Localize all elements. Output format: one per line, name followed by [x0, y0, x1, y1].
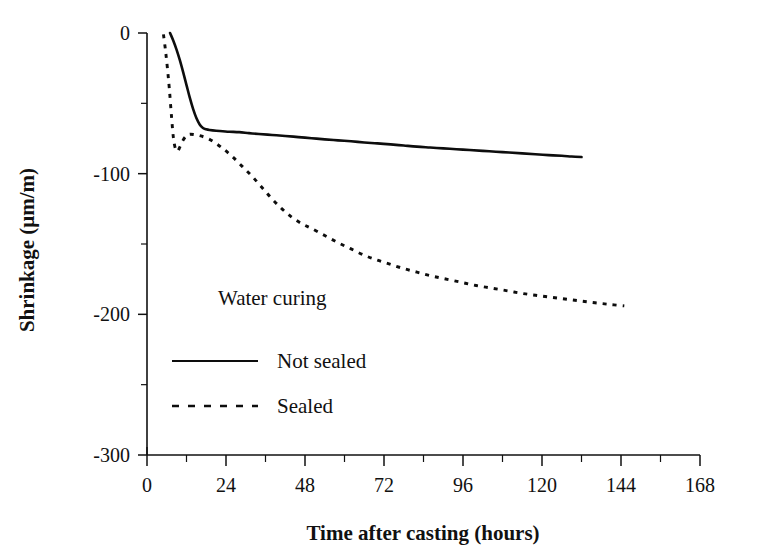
shrinkage-vs-time-chart: 0-100-200-300 024487296120144168 Shrinka… — [0, 0, 770, 550]
y-tick-label: 0 — [120, 22, 130, 44]
legend: Water curing Not sealed Sealed — [172, 286, 367, 418]
x-tick-label: 168 — [685, 474, 715, 496]
y-tick-label: -300 — [93, 444, 130, 466]
y-tick-label: -200 — [93, 303, 130, 325]
series-line-sealed — [163, 34, 624, 305]
legend-title: Water curing — [218, 286, 327, 310]
x-tick-label: 72 — [374, 474, 394, 496]
chart-page: 0-100-200-300 024487296120144168 Shrinka… — [0, 0, 770, 550]
y-tick-label: -100 — [93, 163, 130, 185]
x-tick-label: 24 — [216, 474, 236, 496]
legend-label-sealed: Sealed — [277, 394, 333, 418]
series-line-not-sealed — [170, 33, 581, 157]
x-tick-label: 120 — [527, 474, 557, 496]
x-axis: 024487296120144168 — [142, 447, 715, 496]
x-tick-label: 48 — [295, 474, 315, 496]
y-axis: 0-100-200-300 — [93, 22, 147, 466]
x-tick-label: 0 — [142, 474, 152, 496]
x-tick-label: 96 — [453, 474, 473, 496]
y-axis-title: Shrinkage (μm/m) — [15, 168, 39, 332]
x-axis-title: Time after casting (hours) — [306, 521, 539, 545]
x-tick-label: 144 — [606, 474, 636, 496]
legend-label-not-sealed: Not sealed — [277, 349, 367, 373]
